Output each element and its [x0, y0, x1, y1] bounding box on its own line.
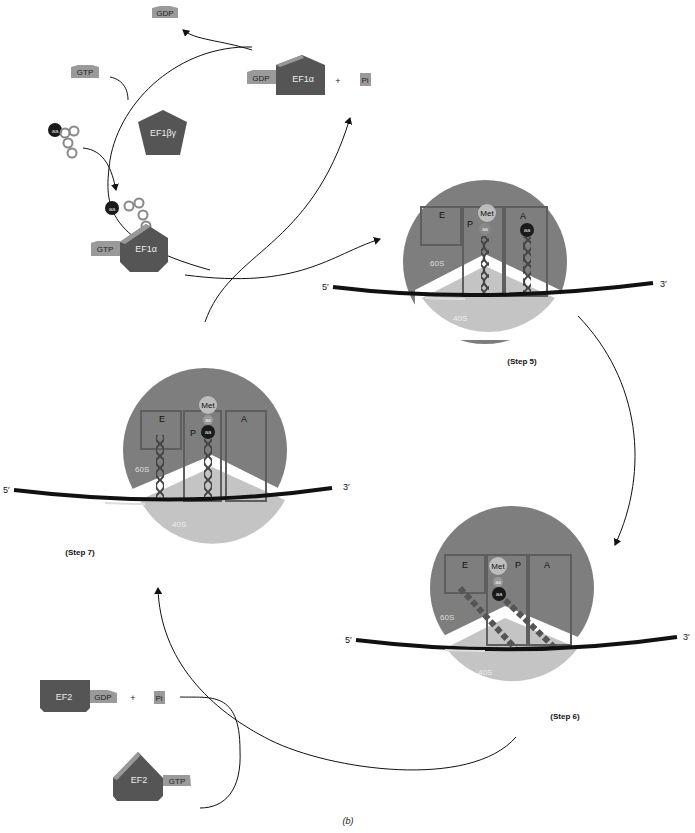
- ef1-beta-gamma: EF1βγ: [138, 110, 187, 155]
- svg-text:+: +: [130, 693, 135, 703]
- svg-text:EF1βγ: EF1βγ: [150, 128, 177, 138]
- svg-text:3′: 3′: [660, 279, 667, 289]
- svg-text:GTP: GTP: [77, 68, 93, 77]
- svg-text:5′: 5′: [3, 485, 10, 495]
- svg-text:EF2: EF2: [56, 692, 73, 702]
- svg-text:(Step 5): (Step 5): [507, 357, 537, 366]
- svg-text:E: E: [159, 414, 165, 424]
- svg-text:40S: 40S: [453, 314, 467, 323]
- ribosome-step6: E P A Met aa aa 60S 40S 5′ 3′ (Step 6): [345, 506, 690, 721]
- svg-text:Pi: Pi: [361, 76, 368, 85]
- svg-text:5′: 5′: [345, 635, 352, 645]
- ef1a-gdp-complex: GDP EF1α + Pi: [247, 55, 371, 95]
- svg-text:E: E: [439, 210, 445, 220]
- svg-text:60S: 60S: [430, 259, 444, 268]
- svg-text:aa: aa: [52, 128, 59, 134]
- svg-text:60S: 60S: [440, 613, 454, 622]
- svg-text:EF1α: EF1α: [292, 74, 314, 84]
- translation-elongation-diagram: GDP GTP EF1βγ aa aa: [0, 0, 695, 833]
- svg-text:(Step 7): (Step 7): [65, 548, 95, 557]
- svg-text:aa: aa: [205, 417, 211, 423]
- svg-text:GTP: GTP: [169, 777, 185, 786]
- svg-text:3′: 3′: [683, 632, 690, 642]
- svg-text:40S: 40S: [478, 668, 492, 677]
- arrow-ef2-gtp-loop: [180, 697, 240, 808]
- svg-text:Met: Met: [491, 562, 505, 571]
- svg-text:E: E: [462, 560, 468, 570]
- arrow-to-ribosome: [185, 239, 380, 279]
- svg-text:aa: aa: [495, 579, 501, 585]
- svg-text:3′: 3′: [343, 482, 350, 492]
- ribosome-step5: E P A Met aa aa 60S 40S 5′ 3′ (Step 5): [322, 180, 667, 366]
- svg-text:GDP: GDP: [252, 74, 269, 83]
- svg-text:Met: Met: [480, 209, 494, 218]
- svg-text:aa: aa: [482, 226, 488, 232]
- svg-text:aa: aa: [109, 206, 116, 212]
- svg-text:P: P: [190, 428, 196, 438]
- svg-text:P: P: [515, 560, 521, 570]
- svg-text:Pi: Pi: [155, 694, 162, 703]
- svg-text:P: P: [467, 219, 473, 229]
- arrow-gtp-in: [110, 77, 128, 100]
- svg-text:GDP: GDP: [156, 9, 173, 18]
- ef2-gtp-complex: EF2 GTP: [113, 752, 191, 801]
- released-gdp-tag: GDP: [152, 6, 178, 18]
- svg-text:Met: Met: [201, 401, 215, 410]
- svg-text:A: A: [544, 560, 550, 570]
- ribosome-step7: E P A Met aa aa 60S 40S 5′ 3′ (Step 7): [3, 368, 350, 557]
- svg-text:5′: 5′: [322, 282, 329, 292]
- svg-text:A: A: [520, 211, 526, 221]
- svg-text:A: A: [241, 414, 247, 424]
- ternary-complex: aa GTP EF1α: [91, 199, 168, 273]
- svg-text:EF2: EF2: [131, 775, 148, 785]
- svg-text:40S: 40S: [172, 520, 186, 529]
- arrow-step5-to-step6: [578, 316, 635, 545]
- ef2-gdp-complex: EF2 GDP + Pi: [40, 680, 165, 712]
- svg-text:EF1α: EF1α: [135, 244, 157, 254]
- ef1-cycle: GDP GTP EF1βγ aa aa: [48, 6, 380, 322]
- svg-text:60S: 60S: [135, 465, 149, 474]
- figure-label: (b): [343, 816, 354, 826]
- free-aminoacyl-trna: aa: [48, 123, 79, 158]
- incoming-gtp-tag: GTP: [71, 65, 99, 78]
- svg-text:(Step 6): (Step 6): [550, 712, 580, 721]
- svg-text:aa: aa: [524, 227, 531, 233]
- svg-text:aa: aa: [496, 591, 503, 597]
- svg-text:aa: aa: [205, 429, 212, 435]
- svg-text:GTP: GTP: [97, 245, 113, 254]
- svg-text:+: +: [335, 76, 340, 86]
- svg-text:GDP: GDP: [94, 693, 111, 702]
